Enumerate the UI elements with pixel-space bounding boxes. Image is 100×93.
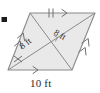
geometry-figure: 10 ft 8 ft 8 ft [0,0,100,93]
base-length-label: 10 ft [30,78,51,89]
bullet-marker [2,17,8,22]
